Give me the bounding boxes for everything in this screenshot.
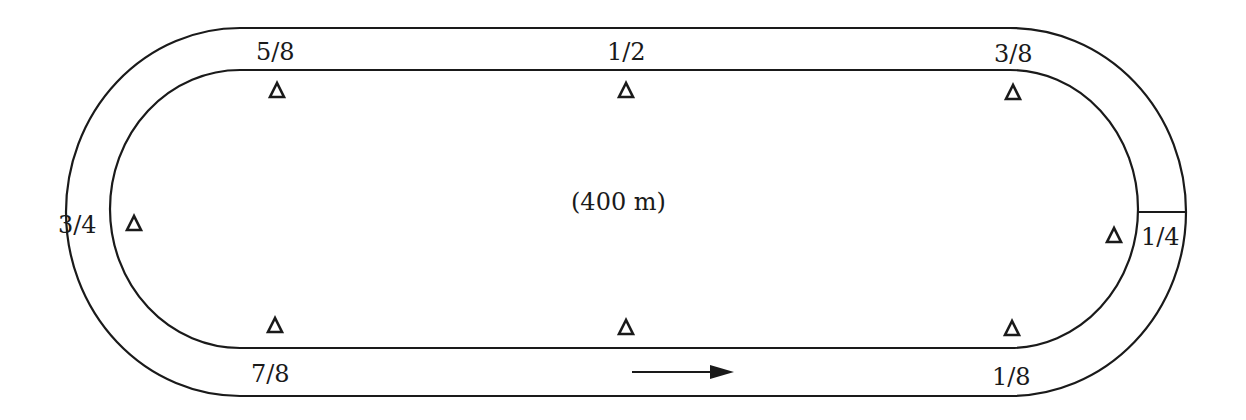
label-three-eighths: 3/8 (994, 40, 1033, 68)
label-one-eighth: 1/8 (992, 363, 1031, 391)
triangle-marker-icon (127, 216, 141, 230)
triangle-marker-icon (619, 83, 633, 97)
triangle-marker-icon (1006, 85, 1020, 99)
label-one-half: 1/2 (607, 38, 646, 66)
triangle-marker-icon (270, 83, 284, 97)
track-length-label: (400 m) (571, 188, 666, 216)
triangle-marker-icon (619, 320, 633, 334)
label-seven-eighths: 7/8 (251, 360, 290, 388)
oval-track-diagram: 5/8 1/2 3/8 3/4 1/4 7/8 1/8 (400 m) (0, 0, 1246, 420)
label-one-quarter: 1/4 (1141, 223, 1180, 251)
triangle-marker-icon (1107, 228, 1121, 242)
label-three-quarters: 3/4 (58, 211, 97, 239)
triangle-marker-icon (1005, 321, 1019, 335)
label-five-eighths: 5/8 (256, 38, 295, 66)
direction-arrow-icon (632, 365, 734, 379)
triangle-marker-icon (268, 318, 282, 332)
